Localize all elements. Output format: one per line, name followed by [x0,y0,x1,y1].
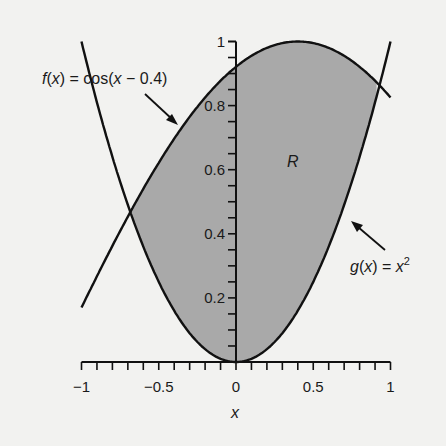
chart: −1−0.500.510.20.40.60.81 f(x) = cos(x − … [0,0,446,446]
x-axis-label: x [230,404,240,421]
shaded-region-r [131,42,377,363]
x-tick-label: −1 [73,378,90,395]
f-label: f(x) = cos(x − 0.4) [42,70,167,87]
y-tick-label: 0.4 [204,225,225,242]
y-tick-label: 1 [217,33,225,50]
y-tick-label: 0.6 [204,161,225,178]
region-label: R [287,153,299,170]
g-arrow [351,221,385,250]
x-tick-label: 0 [232,378,240,395]
y-tick-label: 0.2 [204,289,225,306]
x-tick-label: −0.5 [144,378,174,395]
f-arrow [145,94,178,125]
x-tick-label: 0.5 [303,378,324,395]
g-label: g(x) = x2 [350,255,410,275]
x-tick-label: 1 [386,378,394,395]
y-tick-label: 0.8 [204,97,225,114]
